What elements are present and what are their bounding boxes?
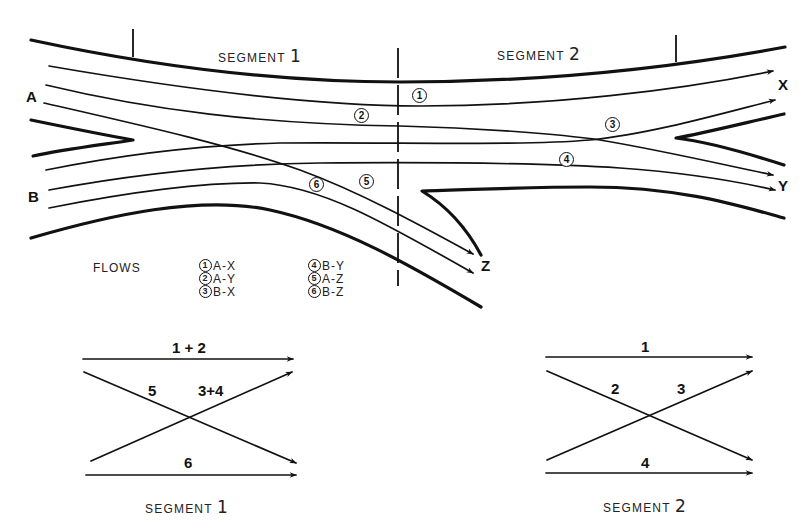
- legend-item-6: 6B-Z: [308, 285, 345, 298]
- destination-y-label: Y: [778, 178, 788, 193]
- legend-od-3: B-X: [213, 286, 236, 298]
- road-edge-ramp: [422, 187, 784, 255]
- segment-1-label-text: SEGMENT: [218, 51, 286, 65]
- legend-item-2: 2A-Y: [199, 272, 236, 285]
- schematic2-caption: SEGMENT 2: [603, 498, 686, 515]
- destination-x-label: X: [778, 77, 788, 92]
- road-edge-left-gore: [31, 120, 133, 156]
- schematic1-cross-right-label: 3+4: [198, 383, 223, 398]
- legend-marker-2: 2: [199, 272, 212, 285]
- segment-1-label: SEGMENT 1: [218, 48, 301, 65]
- legend-od-5: A-Z: [322, 273, 344, 285]
- segment-2-label-text: SEGMENT: [497, 49, 565, 63]
- road-edge-top: [31, 40, 785, 82]
- flow-3-b-x: [46, 100, 775, 170]
- flow-marker-3: 3: [605, 117, 620, 132]
- legend-marker-3: 3: [199, 285, 212, 298]
- legend-od-6: B-Z: [322, 286, 344, 298]
- legend-od-1: A-X: [213, 260, 236, 272]
- flow-2-a-y: [46, 85, 773, 175]
- flow-4-b-y: [49, 163, 775, 190]
- flow-marker-1: 1: [412, 88, 427, 103]
- legend-marker-4: 4: [308, 259, 321, 272]
- legend-item-1: 1A-X: [199, 259, 236, 272]
- schematic1-bottom-label: 6: [184, 455, 192, 470]
- legend-item-4: 4B-Y: [308, 259, 345, 272]
- schematic1-caption: SEGMENT 1: [145, 499, 228, 516]
- schematic2-caption-text: SEGMENT: [603, 501, 671, 515]
- destination-z-label: Z: [481, 258, 490, 273]
- schematic1-caption-text: SEGMENT: [145, 502, 213, 516]
- segment-2-number: 2: [569, 44, 580, 64]
- legend-column-2: 4B-Y 5A-Z 6B-Z: [308, 259, 345, 298]
- flow-marker-4: 4: [559, 152, 574, 167]
- schematic1-cross-left-label: 5: [148, 383, 156, 398]
- flow-marker-5: 5: [359, 174, 374, 189]
- legend-od-2: A-Y: [213, 273, 236, 285]
- segment-2-label: SEGMENT 2: [497, 46, 580, 63]
- flow-marker-6: 6: [309, 177, 324, 192]
- schematic2-caption-number: 2: [675, 496, 686, 516]
- origin-b-label: B: [28, 189, 39, 204]
- legend-od-4: B-Y: [322, 260, 345, 272]
- schematic1-caption-number: 1: [217, 497, 228, 517]
- schematic2-bottom-label: 4: [641, 455, 649, 470]
- segment-1-number: 1: [290, 46, 301, 66]
- legend-item-5: 5A-Z: [308, 272, 345, 285]
- schematic1-top-label: 1 + 2: [172, 340, 206, 355]
- schematic2-top-label: 1: [641, 339, 649, 354]
- flow-1-a-x: [49, 66, 773, 106]
- legend-marker-1: 1: [199, 259, 212, 272]
- legend-marker-6: 6: [308, 285, 321, 298]
- legend-item-3: 3B-X: [199, 285, 236, 298]
- schematic2-cross-left-label: 2: [611, 381, 619, 396]
- flow-6-b-z: [49, 183, 473, 273]
- legend-title: FLOWS: [93, 262, 141, 274]
- schematic2-cross-right-label: 3: [677, 381, 685, 396]
- origin-a-label: A: [26, 89, 37, 104]
- flow-marker-2: 2: [354, 108, 369, 123]
- road-edge-bottom: [31, 205, 481, 307]
- legend-column-1: 1A-X 2A-Y 3B-X: [199, 259, 236, 298]
- legend-marker-5: 5: [308, 272, 321, 285]
